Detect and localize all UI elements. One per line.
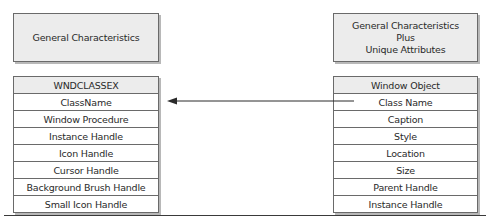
arrowhead-icon [167, 98, 177, 105]
bottom-divider [4, 215, 486, 216]
classname-connector-arrow [0, 0, 490, 223]
